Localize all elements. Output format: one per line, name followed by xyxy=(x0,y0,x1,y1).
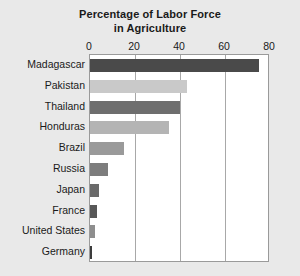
bar-row xyxy=(90,205,268,218)
plot-area xyxy=(89,54,269,262)
bar-row xyxy=(90,184,268,197)
bar-madagascar xyxy=(90,59,259,72)
bar-row xyxy=(90,80,268,93)
category-label-pakistan: Pakistan xyxy=(0,79,85,91)
y-axis-category-labels: MadagascarPakistanThailandHondurasBrazil… xyxy=(0,54,85,262)
bar-germany xyxy=(90,246,92,259)
bar-row xyxy=(90,121,268,134)
chart-title-line-1: Percentage of Labor Force xyxy=(0,7,300,21)
x-tick-label-60: 60 xyxy=(218,40,230,52)
bar-honduras xyxy=(90,121,169,134)
category-label-germany: Germany xyxy=(0,245,85,257)
bars-layer xyxy=(90,55,268,261)
x-tick-label-40: 40 xyxy=(173,40,185,52)
x-axis-tick-labels: 020406080 xyxy=(0,40,300,54)
category-label-brazil: Brazil xyxy=(0,141,85,153)
category-label-france: France xyxy=(0,204,85,216)
category-label-japan: Japan xyxy=(0,183,85,195)
bar-row xyxy=(90,225,268,238)
category-label-thailand: Thailand xyxy=(0,100,85,112)
bar-row xyxy=(90,142,268,155)
x-tick-label-80: 80 xyxy=(263,40,275,52)
category-label-honduras: Honduras xyxy=(0,120,85,132)
bar-thailand xyxy=(90,101,180,114)
bar-row xyxy=(90,246,268,259)
bar-row xyxy=(90,163,268,176)
bar-united-states xyxy=(90,225,95,238)
category-label-madagascar: Madagascar xyxy=(0,58,85,70)
category-label-russia: Russia xyxy=(0,162,85,174)
bar-row xyxy=(90,101,268,114)
x-tick-label-20: 20 xyxy=(128,40,140,52)
bar-row xyxy=(90,59,268,72)
bar-chart-figure: Percentage of Labor Force in Agriculture… xyxy=(0,0,300,276)
bar-japan xyxy=(90,184,99,197)
bar-brazil xyxy=(90,142,124,155)
chart-title-line-2: in Agriculture xyxy=(0,21,300,35)
bar-pakistan xyxy=(90,80,187,93)
bar-russia xyxy=(90,163,108,176)
category-label-united-states: United States xyxy=(0,224,85,236)
chart-title: Percentage of Labor Force in Agriculture xyxy=(0,7,300,35)
x-tick-label-0: 0 xyxy=(86,40,92,52)
bar-france xyxy=(90,205,97,218)
